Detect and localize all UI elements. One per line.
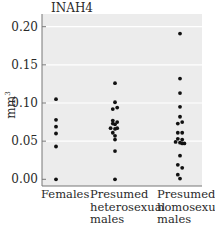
data-point — [54, 97, 58, 101]
data-point — [113, 134, 117, 138]
x-label-homosexual: Presumedhomosexualmales — [157, 188, 215, 225]
data-point — [178, 91, 182, 95]
plot-background — [42, 14, 202, 186]
data-point — [113, 177, 117, 181]
data-point — [115, 126, 119, 130]
data-point — [176, 131, 180, 135]
y-tick-label: 0.20 — [11, 20, 38, 34]
data-point — [115, 106, 119, 110]
data-point — [113, 81, 117, 85]
data-point — [178, 105, 182, 109]
data-point — [183, 142, 187, 146]
data-point — [180, 131, 184, 135]
data-point — [54, 145, 58, 149]
data-point — [111, 107, 115, 111]
data-point — [176, 137, 180, 141]
x-label-heterosexual: Presumedheterosexualmales — [90, 188, 165, 225]
data-point — [111, 131, 115, 135]
data-point — [180, 138, 184, 142]
data-point — [178, 115, 182, 119]
data-point — [111, 122, 115, 126]
chart: INAH4 mm3 0.000.050.100.150.20 Females P… — [0, 0, 215, 225]
y-tick-label: 0.00 — [11, 172, 38, 186]
data-point — [109, 126, 113, 130]
data-point — [54, 132, 58, 136]
y-tick-label: 0.15 — [11, 58, 38, 72]
data-point — [178, 77, 182, 81]
y-tick-label: 0.10 — [11, 96, 38, 110]
data-point — [54, 125, 58, 129]
data-point — [178, 141, 182, 145]
data-point — [180, 120, 184, 124]
data-point — [54, 177, 58, 181]
data-point — [54, 118, 58, 122]
data-point — [113, 149, 117, 153]
data-point — [178, 154, 182, 158]
data-point — [113, 100, 117, 104]
data-point — [176, 163, 180, 167]
data-point — [176, 173, 180, 177]
data-point — [176, 122, 180, 126]
data-point — [113, 138, 117, 142]
x-label-females: Females — [41, 188, 89, 201]
data-point — [178, 177, 182, 181]
data-point — [180, 166, 184, 170]
y-tick-label: 0.05 — [11, 134, 38, 148]
data-point — [174, 140, 178, 144]
data-point — [178, 32, 182, 36]
